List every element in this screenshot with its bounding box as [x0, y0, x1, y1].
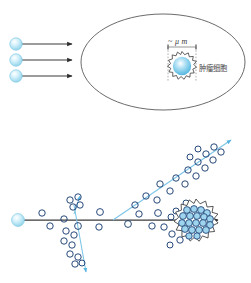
particle-sphere-3 [10, 70, 22, 82]
bottom-panel [12, 140, 231, 272]
source-particle [12, 214, 25, 227]
secondary-track-down [74, 205, 86, 272]
tumor-cell-cluster [174, 199, 218, 241]
particle-sphere-2 [10, 54, 22, 66]
tumor-cell-core [173, 57, 191, 75]
secondary-track-up [113, 140, 231, 220]
ionisation-circles-primary [39, 208, 179, 230]
tumor-cell-label: 肿瘤细胞 [199, 62, 227, 73]
figure-canvas [0, 0, 251, 283]
particle-sphere-1 [10, 38, 22, 50]
scale-label: ~ μ m [168, 37, 188, 46]
incident-particle-2 [10, 54, 72, 66]
incident-particle-3 [10, 70, 72, 82]
tumor-cell [168, 52, 197, 80]
ionisation-circles-down [61, 194, 85, 267]
incident-particle-1 [10, 38, 72, 50]
